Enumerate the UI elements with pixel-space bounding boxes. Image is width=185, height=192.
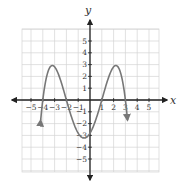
x-tick-label: −5: [25, 103, 36, 112]
y-tick-label: −5: [76, 155, 87, 164]
x-axis-label: x: [170, 94, 177, 107]
x-tick-label: 2: [111, 103, 116, 112]
polynomial-graph: −5−4−3−2−112345−5−4−3−2−112345 x y: [0, 0, 185, 192]
x-tick-label: −2: [61, 103, 72, 112]
y-tick-label: 4: [82, 48, 87, 57]
y-tick-label: 3: [82, 60, 87, 69]
y-tick-label: −2: [76, 119, 87, 128]
x-tick-label: 5: [147, 103, 152, 112]
y-tick-label: 5: [82, 37, 87, 46]
x-tick-label: −3: [49, 103, 60, 112]
y-tick-label: −4: [76, 143, 87, 152]
axes: [12, 20, 167, 180]
y-tick-label: 2: [82, 72, 87, 81]
x-tick-label: 4: [135, 103, 140, 112]
y-axis-label: y: [84, 4, 92, 17]
y-tick-label: 1: [82, 84, 87, 93]
y-tick-label: −1: [76, 107, 87, 116]
